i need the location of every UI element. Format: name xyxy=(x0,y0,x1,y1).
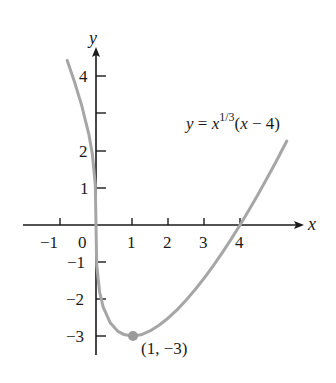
function-curve xyxy=(67,60,287,336)
y-axis-label: y xyxy=(87,28,97,48)
y-tick-label-neg3: −3 xyxy=(66,327,84,346)
chart-svg: −1 0 1 2 3 4 4 2 1 −1 −2 −3 x y y = x1/3… xyxy=(0,0,336,383)
x-tick-label-2: 2 xyxy=(163,233,172,252)
x-tick-label-3: 3 xyxy=(199,233,208,252)
min-point-label: (1, −3) xyxy=(141,339,187,358)
equation-label: y = x1/3(x − 4) xyxy=(184,110,280,133)
x-tick-label-neg1: −1 xyxy=(40,233,58,252)
chart-figure: −1 0 1 2 3 4 4 2 1 −1 −2 −3 x y y = x1/3… xyxy=(0,0,336,383)
x-tick-label-4: 4 xyxy=(235,233,244,252)
x-tick-label-0: 0 xyxy=(78,233,87,252)
x-axis-label: x xyxy=(307,214,316,234)
y-tick-label-1: 1 xyxy=(80,179,89,198)
y-tick-label-4: 4 xyxy=(79,67,88,86)
x-ticks xyxy=(60,218,240,225)
y-tick-label-2: 2 xyxy=(79,142,88,161)
y-tick-label-neg2: −2 xyxy=(66,290,84,309)
x-tick-label-1: 1 xyxy=(127,233,136,252)
y-tick-label-neg1: −1 xyxy=(67,253,85,272)
min-point-marker xyxy=(128,331,138,341)
